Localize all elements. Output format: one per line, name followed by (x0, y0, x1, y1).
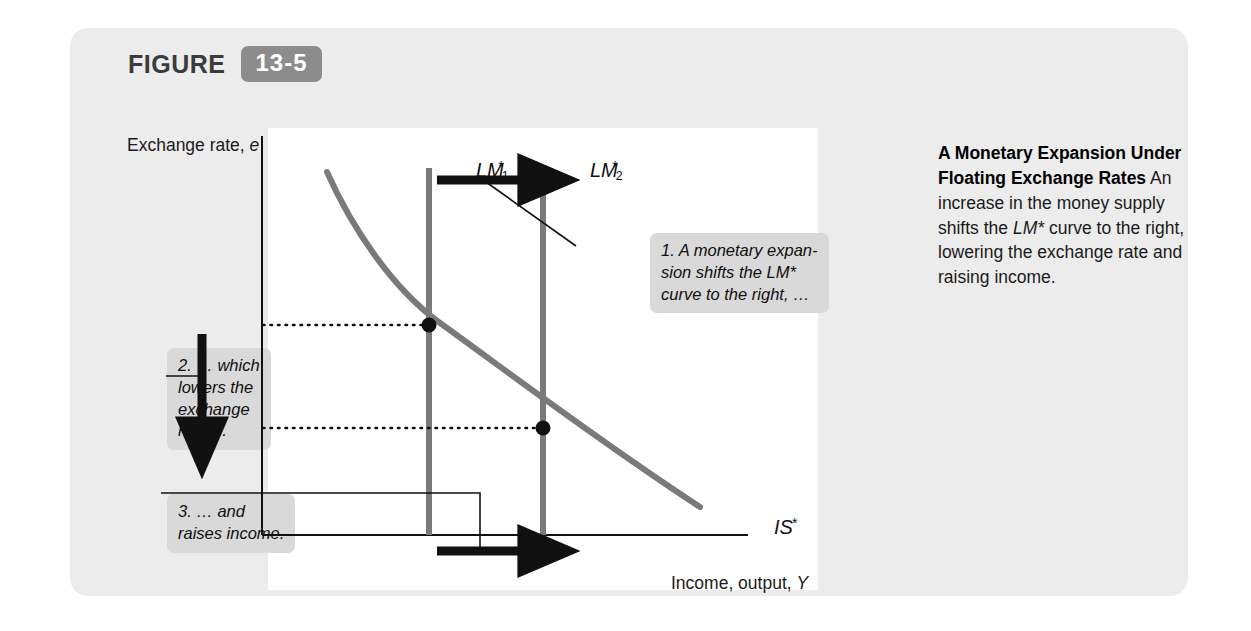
x-axis-title-text: Income, output, (671, 573, 797, 593)
figure-header: FIGURE 13-5 (128, 46, 322, 82)
lm2-subscript: 2 (616, 169, 623, 183)
is-curve-label: IS* (774, 515, 797, 539)
caption-title: A Monetary Expansion Under Floating Exch… (938, 143, 1181, 188)
lm2-curve-label: LM*2 (590, 158, 623, 183)
is-base: IS (774, 516, 793, 538)
y-axis-title-text: Exchange rate, (127, 135, 250, 155)
figure-number-badge: 13-5 (241, 46, 321, 82)
figure-caption: A Monetary Expansion Under Floating Exch… (938, 141, 1206, 290)
lm1-curve-label: LM*1 (476, 158, 509, 183)
x-axis-symbol: Y (797, 573, 809, 593)
is-superscript: * (792, 515, 797, 531)
figure-label: FIGURE (128, 50, 225, 79)
caption-body-italic: LM* (1013, 218, 1044, 238)
y-axis-symbol: e (250, 135, 260, 155)
plot-panel (268, 128, 818, 590)
x-axis-title: Income, output, Y (671, 573, 808, 594)
y-axis-title: Exchange rate, e (127, 135, 259, 156)
lm1-subscript: 1 (502, 169, 509, 183)
callout-step-3: 3. … and raises income. (167, 494, 295, 553)
figure-screenshot: FIGURE 13-5 Exchange rate, e Income, out… (0, 0, 1251, 631)
figure-card: FIGURE 13-5 Exchange rate, e Income, out… (70, 28, 1188, 596)
callout-step-2: 2. … which lowers the exchange rate … (167, 348, 271, 450)
callout-step-1: 1. A monetary expan- sion shifts the LM*… (650, 233, 829, 313)
